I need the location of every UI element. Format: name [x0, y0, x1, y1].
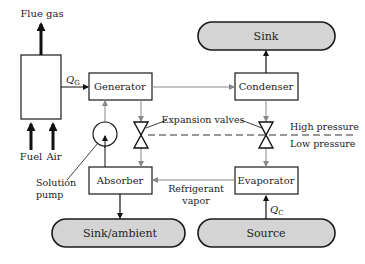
combustor-box — [21, 55, 61, 119]
refrigerant-label-line1: Refrigerant — [168, 183, 224, 194]
air-label: Air — [45, 151, 61, 162]
expansion-valves-label: Expansion valves — [162, 114, 245, 125]
condenser-label: Condenser — [239, 81, 294, 92]
source-label: Source — [246, 227, 285, 240]
generator-label: Generator — [94, 81, 146, 92]
absorption-cycle-diagram: Sink Sink/ambient Source Flue gas Fuel A… — [0, 0, 365, 264]
expansion-valve-left-icon — [134, 122, 148, 148]
solution-pump-label-line2: pump — [36, 189, 63, 200]
sink-ambient-label: Sink/ambient — [83, 227, 158, 240]
qc-label: QC — [270, 204, 284, 217]
high-pressure-label: High pressure — [290, 121, 359, 132]
qg-label: QG — [66, 74, 80, 87]
flue-gas-label: Flue gas — [20, 8, 63, 19]
sink-label: Sink — [254, 30, 279, 43]
absorber-label: Absorber — [96, 175, 144, 186]
low-pressure-label: Low pressure — [290, 138, 356, 149]
fuel-label: Fuel — [20, 151, 43, 162]
evaporator-label: Evaporator — [238, 175, 295, 186]
refrigerant-label-line2: vapor — [181, 195, 210, 206]
solution-pump-label-line1: Solution — [36, 177, 76, 188]
